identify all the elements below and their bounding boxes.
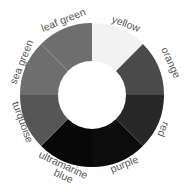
wheel-segments <box>20 23 164 167</box>
label-orange: orange <box>159 45 183 80</box>
color-wheel: yellow orange red purple ultramarine blu… <box>0 0 184 192</box>
